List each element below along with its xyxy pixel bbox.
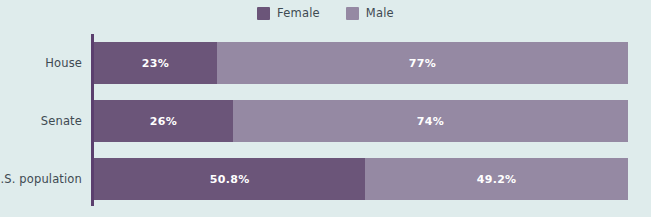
bar-segment-male-us-population: 49.2% [365,158,628,200]
chart-row-senate: Senate 26% 74% [0,100,651,142]
bar-track-us-population: 50.8% 49.2% [94,158,628,200]
bar-segment-male-senate: 74% [233,100,628,142]
bar-segment-female-house: 23% [94,42,217,84]
bar-value-female-senate: 26% [150,116,177,127]
bar-track-house: 23% 77% [94,42,628,84]
bar-value-male-us-population: 49.2% [477,174,517,185]
bar-value-male-house: 77% [409,58,436,69]
chart-row-us-population: U.S. population 50.8% 49.2% [0,158,651,200]
stacked-bar-chart: Female Male House 23% 77% Senate [0,0,651,217]
bar-track-senate: 26% 74% [94,100,628,142]
bar-segment-female-senate: 26% [94,100,233,142]
bar-segment-male-house: 77% [217,42,628,84]
row-label-house: House [0,42,82,84]
bar-value-male-senate: 74% [417,116,444,127]
chart-row-house: House 23% 77% [0,42,651,84]
chart-plot-area: House 23% 77% Senate 26% 74% [0,0,651,217]
bar-segment-female-us-population: 50.8% [94,158,365,200]
bar-value-female-us-population: 50.8% [210,174,250,185]
bar-value-female-house: 23% [142,58,169,69]
row-label-us-population: U.S. population [0,158,82,200]
row-label-senate: Senate [0,100,82,142]
